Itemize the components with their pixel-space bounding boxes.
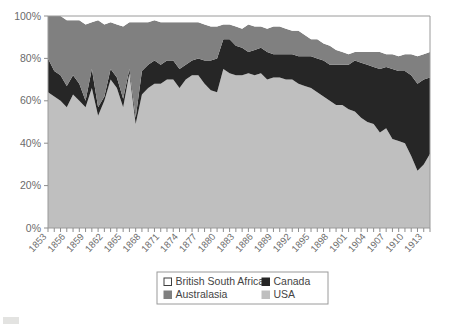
x-tick-label: 1874 xyxy=(158,231,180,254)
x-tick-label: 1910 xyxy=(383,231,405,254)
legend-swatch-icon xyxy=(164,291,172,299)
legend-swatch-icon xyxy=(262,291,270,299)
x-tick-label: 1853 xyxy=(26,231,48,254)
x-tick-label: 1895 xyxy=(289,231,311,254)
legend-item-label: Canada xyxy=(274,275,311,287)
x-tick-label: 1904 xyxy=(346,231,368,254)
page-artifact xyxy=(3,317,19,324)
x-tick-label: 1886 xyxy=(233,231,255,254)
y-tick-label: 40% xyxy=(20,137,41,149)
x-tick-label: 1898 xyxy=(308,231,330,254)
x-tick-label: 1889 xyxy=(252,231,274,254)
chart-container: 0%20%40%60%80%100% 185318561859186218651… xyxy=(0,0,452,326)
y-axis-ticks: 0%20%40%60%80%100% xyxy=(14,10,48,234)
x-tick-label: 1865 xyxy=(101,231,123,254)
x-tick-label: 1892 xyxy=(270,231,292,254)
x-tick-label: 1859 xyxy=(64,231,86,254)
x-tick-label: 1907 xyxy=(364,231,386,254)
x-tick-label: 1880 xyxy=(195,231,217,254)
x-tick-label: 1883 xyxy=(214,231,236,254)
x-tick-label: 1856 xyxy=(45,231,67,254)
y-tick-label: 60% xyxy=(20,94,41,106)
y-tick-label: 100% xyxy=(14,10,41,22)
x-axis-ticks: 1853185618591862186518681871187418771880… xyxy=(26,228,430,254)
y-tick-label: 20% xyxy=(20,179,41,191)
legend-item-label: Australasia xyxy=(176,288,228,300)
x-tick-label: 1901 xyxy=(327,231,349,254)
x-tick-label: 1913 xyxy=(402,231,424,254)
legend-item-label: USA xyxy=(274,288,296,300)
x-tick-label: 1877 xyxy=(176,231,198,254)
stacked-area-chart: 0%20%40%60%80%100% 185318561859186218651… xyxy=(0,0,452,326)
x-tick-label: 1862 xyxy=(83,231,105,254)
legend-swatch-icon xyxy=(262,278,270,286)
x-tick-label: 1871 xyxy=(139,231,161,254)
legend-item-british-south-africa[interactable]: British South Africa xyxy=(164,275,264,287)
legend-swatch-icon xyxy=(164,278,172,286)
chart-legend[interactable]: British South AfricaCanadaAustralasiaUSA xyxy=(157,272,328,304)
y-tick-label: 80% xyxy=(20,52,41,64)
series-areas xyxy=(48,16,430,228)
legend-item-label: British South Africa xyxy=(176,275,265,287)
x-tick-label: 1868 xyxy=(120,231,142,254)
